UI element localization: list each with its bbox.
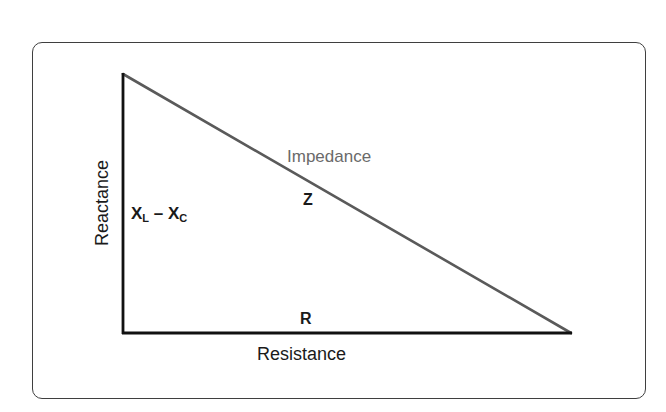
reactance-symbol-xc-subscript: C (179, 212, 187, 224)
resistance-axis-label: Resistance (257, 345, 346, 363)
reactance-axis-label: Reactance (93, 160, 111, 246)
hypotenuse-impedance-line (123, 74, 571, 333)
resistance-symbol: R (300, 311, 312, 327)
impedance-label: Impedance (287, 148, 371, 165)
reactance-symbol-xc: X (168, 204, 179, 223)
reactance-symbol: XL – XC (131, 205, 187, 222)
reactance-symbol-xl: X (131, 204, 142, 223)
impedance-symbol: Z (303, 192, 313, 208)
reactance-symbol-operator: – (149, 204, 168, 223)
